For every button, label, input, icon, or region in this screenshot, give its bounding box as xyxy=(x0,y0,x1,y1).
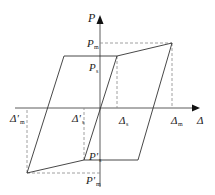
svg-text:m: m xyxy=(178,121,183,127)
y-axis-arrow-icon xyxy=(97,15,104,24)
label-ds: Δ s xyxy=(118,114,129,127)
svg-text:P': P' xyxy=(85,174,96,186)
hysteresis-diagram: P Δ P m P s P' s P' m Δ' m Δ' s Δ s Δ m xyxy=(0,0,215,195)
x-axis-arrow-icon xyxy=(192,105,200,112)
y-axis-label: P xyxy=(87,11,96,25)
svg-text:P': P' xyxy=(88,150,99,162)
label-dm-neg: Δ' m xyxy=(9,112,25,125)
svg-text:Δ': Δ' xyxy=(9,112,19,124)
label-dm: Δ m xyxy=(170,114,183,127)
svg-text:Δ: Δ xyxy=(170,114,177,126)
x-axis-label: Δ xyxy=(196,114,203,126)
svg-text:m: m xyxy=(94,44,99,50)
label-ds-neg: Δ' s xyxy=(71,112,85,125)
svg-text:Δ: Δ xyxy=(118,114,125,126)
svg-text:Δ': Δ' xyxy=(71,112,81,124)
svg-text:s: s xyxy=(126,121,129,127)
label-pm: P m xyxy=(86,37,99,50)
svg-text:s: s xyxy=(96,68,99,74)
svg-text:P: P xyxy=(86,37,94,49)
svg-text:m: m xyxy=(96,181,101,187)
svg-text:s: s xyxy=(82,119,85,125)
svg-text:m: m xyxy=(20,119,25,125)
label-ps: P s xyxy=(88,61,99,74)
label-pm-neg: P' m xyxy=(85,174,101,187)
svg-text:P: P xyxy=(88,61,96,73)
